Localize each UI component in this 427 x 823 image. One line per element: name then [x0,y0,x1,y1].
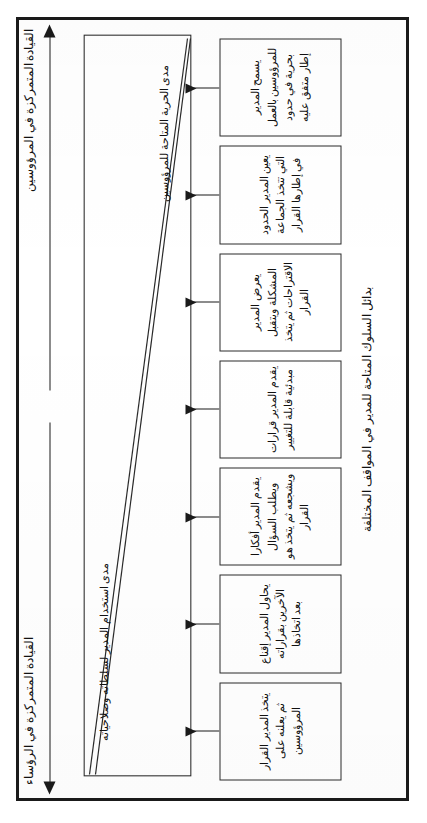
behaviour-box-text: يعرض المدير المشكلة ويتقبل الاقتراحات ثم… [247,259,312,345]
behaviour-box: يعرض المدير المشكلة ويتقبل الاقتراحات ثم… [219,253,341,351]
connector-arrow-head-icon [185,512,196,522]
connector-arrow-head-icon [185,83,196,93]
continuum-axis-row: القيادة المتمركزة في المرؤوسين القيادة ا… [19,20,83,798]
diagram-caption: بدائل السلوك المتاحة للمدير في المواقف ا… [359,20,374,798]
behaviour-box-text: يسمح المدير للمرؤوسين بالعمل بحرية في حد… [247,44,312,130]
connector-arrow-head-icon [185,190,196,200]
behaviour-box: يتخذ المدير القرار ثم يعلنه على المرؤوسي… [219,682,341,780]
wedge-label-subordinate-freedom: مدى الحرية المتاحة للمرؤوسين [157,64,170,201]
behaviour-box-row: يتخذ المدير القرار ثم يعلنه على المرؤوسي… [219,20,351,798]
behaviour-box: يقدم المدير أفكارا ويطلب السؤال ويشجعه ث… [219,467,341,565]
connector-arrow-head-icon [185,619,196,629]
connector-arrow-head-icon [185,405,196,415]
axis-line-subordinate [49,28,50,390]
behaviour-box: يقدم المدير قرارات مبدئية قابلة للتغيير [219,360,341,458]
arrow-head-left-icon [43,781,55,794]
behaviour-box-text: يتخذ المدير القرار ثم يعلنه على المرؤوسي… [256,688,305,774]
axis-label-subordinate-centered: القيادة المتمركزة في المرؤوسين [21,28,35,192]
behaviour-box-text: يعين المدير الحدود التي تتخذ الجماعة في … [256,151,305,237]
behaviour-box: يعين المدير الحدود التي تتخذ الجماعة في … [219,145,341,243]
behaviour-box-text: يقدم المدير أفكارا ويطلب السؤال ويشجعه ث… [247,473,312,559]
behaviour-box: يحاول المدير إقناع الآخرين بقراراته بعد … [219,574,341,672]
diagram-page-frame: القيادة المتمركزة في المرؤوسين القيادة ا… [16,17,409,801]
behaviour-box-text: يقدم المدير قرارات مبدئية قابلة للتغيير [264,366,297,452]
behaviour-box-text: يحاول المدير إقناع الآخرين بقراراته بعد … [256,580,305,666]
connector-arrow-head-icon [185,726,196,736]
connector-arrow-head-icon [185,297,196,307]
axis-line-boss [49,422,50,784]
axis-label-boss-centered: القيادة المتمركزة في الرؤساء [21,636,35,784]
rotated-diagram-stage: القيادة المتمركزة في المرؤوسين القيادة ا… [19,20,406,798]
authority-freedom-wedge: مدى استخدام المدير لسلطاته وصلاحياته مدى… [83,34,191,776]
wedge-label-manager-authority: مدى استخدام المدير لسلطاته وصلاحياته [97,562,110,740]
behaviour-box: يسمح المدير للمرؤوسين بالعمل بحرية في حد… [219,38,341,136]
arrow-head-right-icon [43,24,55,37]
